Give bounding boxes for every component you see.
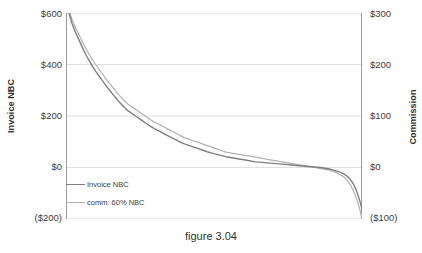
right-tick-300: $300	[370, 8, 416, 19]
left-tick-200: $200	[18, 110, 62, 121]
left-tick-400: $400	[18, 59, 62, 70]
right-tick-200: $200	[370, 59, 416, 70]
legend-label-comm-60-nbc: comm: 60% NBC	[87, 198, 145, 207]
legend-swatch-invoice-nbc	[66, 184, 85, 185]
right-tick-100: $100	[370, 110, 416, 121]
figure-caption: figure 3.04	[0, 230, 422, 242]
left-tick-neg200: ($200)	[18, 212, 62, 223]
right-tick-0: $0	[370, 161, 416, 172]
right-tick-neg100: ($100)	[370, 212, 416, 223]
left-tick-600: $600	[18, 8, 62, 19]
left-axis-title: Invoice NBC	[6, 73, 16, 139]
left-tick-0: $0	[18, 161, 62, 172]
figure-container: Invoice NBC Commission $600 $400 $200 $0…	[0, 0, 422, 253]
legend-label-invoice-nbc: Invoice NBC	[87, 180, 129, 189]
legend-swatch-comm-60-nbc	[66, 202, 85, 203]
